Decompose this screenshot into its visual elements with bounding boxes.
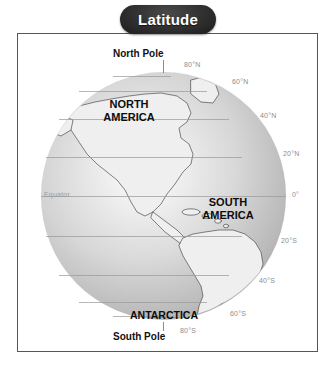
north-pole-label: North Pole — [113, 48, 164, 59]
gridline-20s — [46, 236, 242, 237]
globe-stage: 80°N 60°N 40°N 20°N 0° 20°S 40°S 60°S 80… — [0, 0, 335, 375]
continent-label-south-america: SOUTH AMERICA — [187, 196, 269, 221]
lat-label-20s: 20°S — [281, 237, 297, 244]
gridline-80n — [113, 76, 171, 77]
gridline-40s — [59, 275, 229, 276]
lat-label-60s: 60°S — [230, 310, 246, 317]
lat-label-80s: 80°S — [180, 327, 196, 334]
lat-label-40n: 40°N — [260, 112, 276, 119]
gridline-60s — [79, 302, 207, 303]
south-pole-tick — [163, 322, 164, 331]
lat-label-80n: 80°N — [184, 61, 200, 68]
continent-label-north-america: NORTH AMERICA — [88, 98, 170, 123]
title-label: Latitude — [138, 12, 198, 27]
gridline-20n — [46, 157, 242, 158]
latitude-diagram: 80°N 60°N 40°N 20°N 0° 20°S 40°S 60°S 80… — [0, 0, 335, 375]
lat-label-20n: 20°N — [283, 150, 299, 157]
gridline-60n — [79, 91, 207, 92]
title-badge: Latitude — [120, 5, 216, 34]
south-pole-label: South Pole — [113, 331, 165, 342]
lat-label-60n: 60°N — [232, 78, 248, 85]
north-pole-tick — [163, 60, 164, 73]
lat-label-0: 0° — [292, 191, 299, 198]
equator-label: Equator — [44, 191, 70, 198]
continent-label-antarctica: ANTARCTICA — [96, 309, 232, 322]
lat-label-40s: 40°S — [259, 277, 275, 284]
